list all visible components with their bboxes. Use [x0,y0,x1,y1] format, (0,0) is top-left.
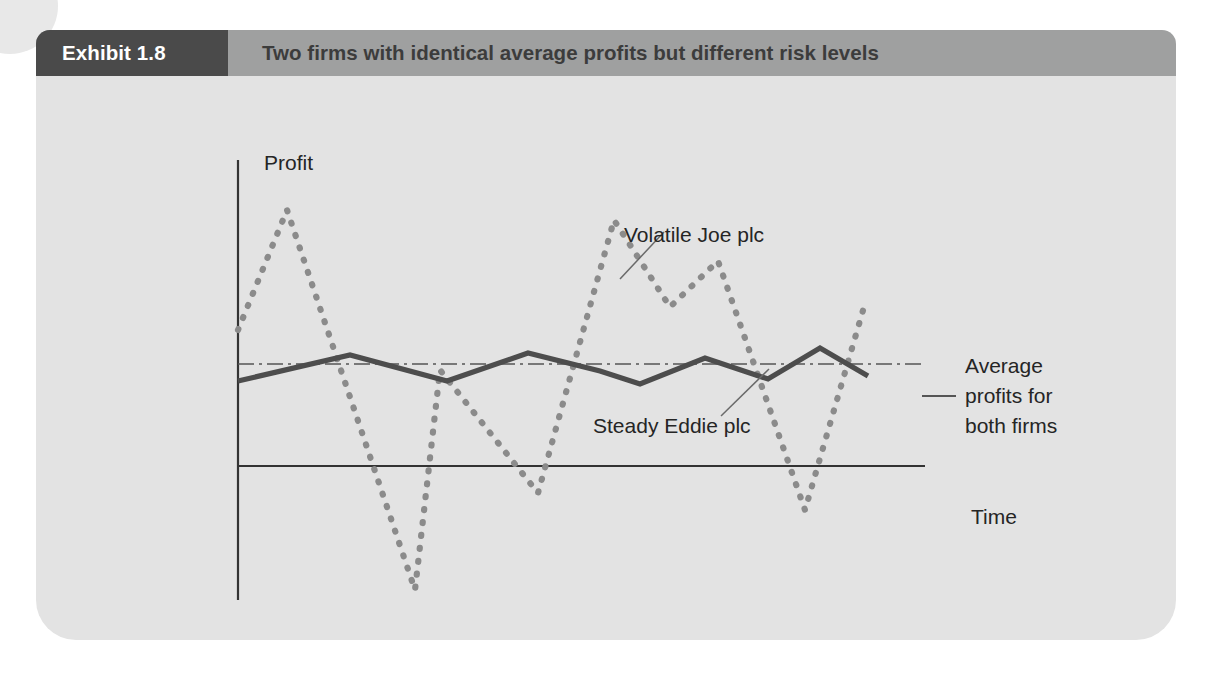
volatile-joe-label: Volatile Joe plc [624,223,764,246]
average-label-line1: Average [965,354,1043,377]
volatile-joe-series [238,210,866,590]
average-label-line2: profits for [965,384,1053,407]
steady-eddie-series [238,348,868,384]
exhibit-panel: Exhibit 1.8 Two firms with identical ave… [36,30,1176,640]
exhibit-header: Exhibit 1.8 Two firms with identical ave… [36,30,1176,76]
average-label-line3: both firms [965,414,1057,437]
time-axis-label: Time [971,505,1017,528]
chart-svg: Profit Loss Time Volatile Joe plc Steady… [36,76,1176,640]
steady-eddie-label: Steady Eddie plc [593,414,751,437]
exhibit-badge-label: Exhibit 1.8 [62,41,166,65]
exhibit-badge: Exhibit 1.8 [36,30,228,76]
chart-area: Profit Loss Time Volatile Joe plc Steady… [36,76,1176,640]
profit-axis-label: Profit [264,151,313,174]
exhibit-title: Two firms with identical average profits… [228,41,879,65]
steady-eddie-leader-line [721,369,769,416]
loss-axis-label: Loss [264,637,308,640]
